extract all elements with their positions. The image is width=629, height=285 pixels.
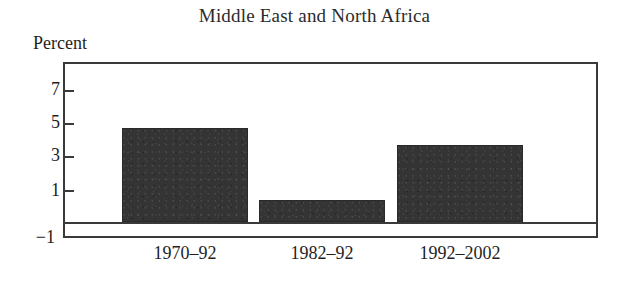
plot-area bbox=[63, 62, 598, 238]
y-tick-mark-5 bbox=[65, 123, 74, 125]
y-tick-label-7: 7 bbox=[26, 80, 60, 98]
y-tick-label-5: 5 bbox=[26, 113, 60, 131]
y-tick-mark-7 bbox=[65, 90, 74, 92]
y-tick-label-1: 1 bbox=[26, 181, 60, 199]
y-axis-label: Percent bbox=[33, 33, 87, 53]
x-axis-label-1982-92: 1982–92 bbox=[259, 243, 385, 263]
zero-baseline bbox=[65, 222, 596, 224]
x-axis-label-1992-2002: 1992–2002 bbox=[397, 243, 523, 263]
y-tick-label-minus-1: −1 bbox=[21, 228, 55, 246]
chart-title: Middle East and North Africa bbox=[0, 5, 629, 27]
bar-1970-92 bbox=[122, 128, 248, 222]
x-axis-label-1970-92: 1970–92 bbox=[122, 243, 248, 263]
y-tick-label-3: 3 bbox=[26, 146, 60, 164]
bar-1982-92 bbox=[259, 200, 385, 222]
bar-1992-2002 bbox=[397, 145, 523, 222]
y-tick-mark-1 bbox=[65, 190, 74, 192]
bar-chart-figure: Middle East and North Africa Percent 7 5… bbox=[0, 0, 629, 285]
plot-inner bbox=[65, 64, 596, 236]
y-tick-mark-3 bbox=[65, 156, 74, 158]
